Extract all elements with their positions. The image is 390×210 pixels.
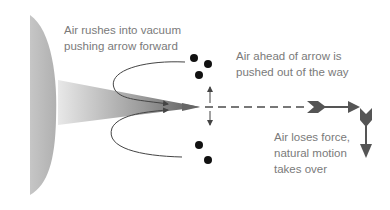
air-dot <box>204 60 212 68</box>
air-dot <box>190 54 198 62</box>
label-ahead: Air ahead of arrow is pushed out of the … <box>236 48 349 80</box>
diagram-canvas <box>0 0 390 210</box>
air-dot <box>195 71 203 79</box>
air-cone <box>58 80 200 125</box>
bow-shape <box>30 15 56 195</box>
arrow-horizontal <box>307 101 360 113</box>
lower-air-curve <box>111 110 182 157</box>
air-dot <box>204 156 212 164</box>
label-loses: Air loses force, natural motion takes ov… <box>274 129 350 177</box>
label-rush: Air rushes into vacuum pushing arrow for… <box>64 22 181 54</box>
arrow-tip <box>182 103 200 111</box>
arrow-vertical <box>360 108 372 158</box>
air-dot <box>195 141 203 149</box>
